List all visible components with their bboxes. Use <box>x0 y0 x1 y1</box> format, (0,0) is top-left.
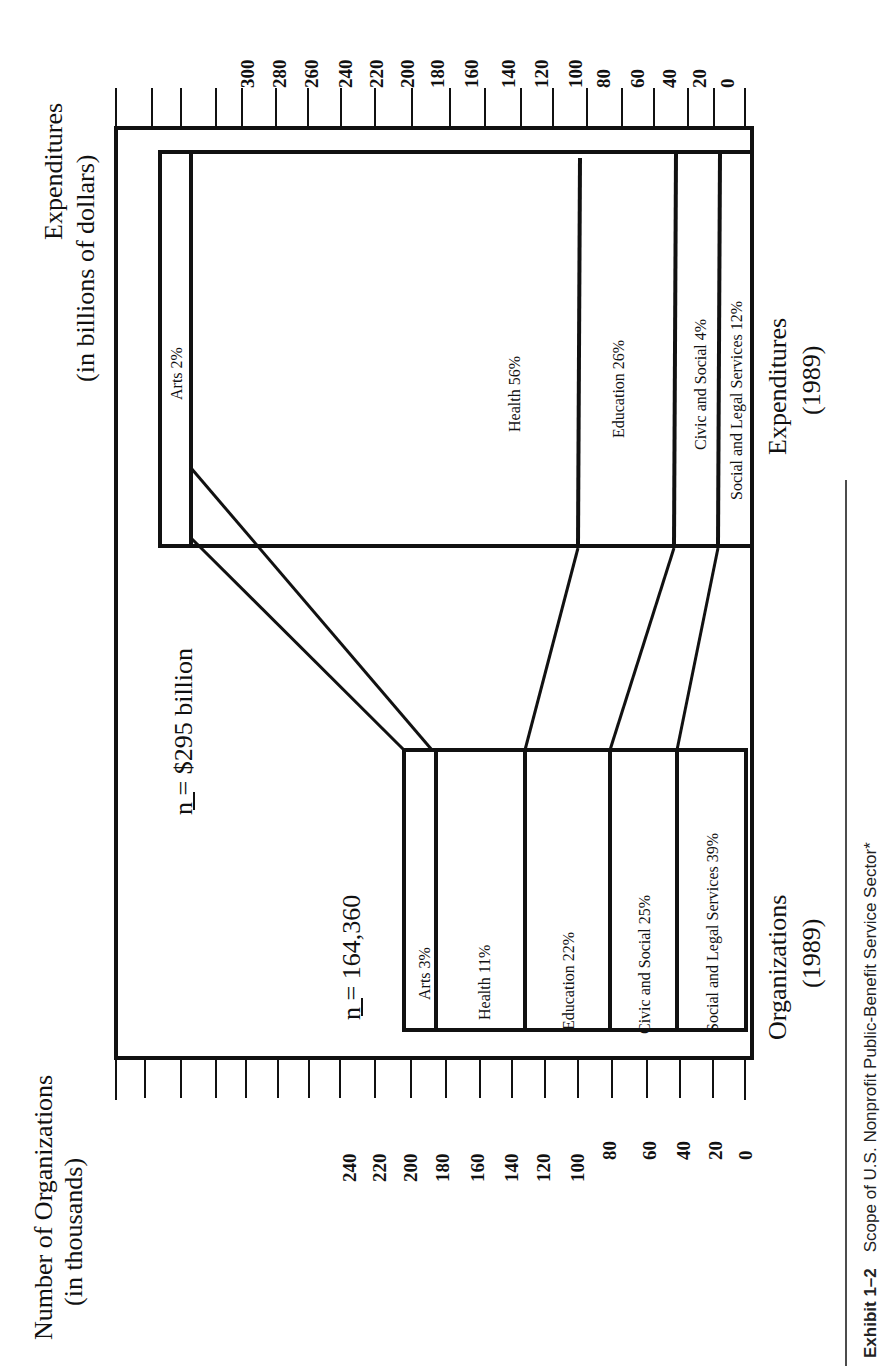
left-axis-title: Number of Organizations <box>29 1075 58 1340</box>
left-tick-160: 160 <box>467 1154 488 1183</box>
caption-text: Scope of U.S. Nonprofit Public-Benefit S… <box>861 842 880 1252</box>
exp-segment-health: Health 56% <box>506 356 523 432</box>
left-tick-40: 40 <box>673 1141 694 1160</box>
left-tick-0: 0 <box>735 1151 756 1161</box>
right-axis-labels: 0 20 40 60 80 100 120 140 160 180 200 22… <box>237 60 738 89</box>
right-tick-180: 180 <box>427 60 448 89</box>
left-tick-100: 100 <box>567 1154 588 1183</box>
right-tick-100: 100 <box>565 60 586 89</box>
right-axis-title: Expenditures <box>39 103 68 240</box>
connector-lines <box>191 468 718 750</box>
right-axis-subtitle: (in billions of dollars) <box>71 155 100 382</box>
right-tick-160: 160 <box>461 60 482 89</box>
right-tick-260: 260 <box>301 60 322 89</box>
right-tick-200: 200 <box>397 60 418 89</box>
org-segment-health: Health 11% <box>476 945 493 1020</box>
caption: Exhibit 1–2 Scope of U.S. Nonprofit Publ… <box>861 842 880 1358</box>
exp-segment-arts: Arts 2% <box>168 347 185 400</box>
left-tick-60: 60 <box>639 1141 660 1160</box>
right-tick-120: 120 <box>531 60 552 89</box>
left-tick-220: 220 <box>369 1154 390 1183</box>
left-tick-140: 140 <box>501 1154 522 1183</box>
left-axis <box>116 1058 745 1100</box>
left-tick-180: 180 <box>432 1154 453 1183</box>
left-axis-subtitle: (in thousands) <box>59 1158 88 1306</box>
org-segment-education: Education 22% <box>560 932 577 1030</box>
expenditures-total-label: n = $295 billion <box>169 648 198 815</box>
chart-figure: 0 20 40 60 80 100 120 140 160 180 200 22… <box>0 0 888 1366</box>
org-segment-social-legal: Social and Legal Services 39% <box>704 833 722 1032</box>
org-segment-arts: Arts 3% <box>416 947 433 1000</box>
expenditures-bar <box>160 152 752 546</box>
right-tick-240: 240 <box>335 60 356 89</box>
right-tick-0: 0 <box>717 79 738 89</box>
right-tick-220: 220 <box>366 60 387 89</box>
left-tick-200: 200 <box>400 1154 421 1183</box>
right-tick-280: 280 <box>269 60 290 89</box>
left-tick-120: 120 <box>533 1154 554 1183</box>
right-tick-60: 60 <box>627 69 648 88</box>
right-tick-140: 140 <box>498 60 519 89</box>
caption-number: Exhibit 1–2 <box>861 1268 880 1358</box>
right-axis <box>116 88 745 128</box>
right-tick-20: 20 <box>689 69 710 88</box>
expenditures-bar-title: Expenditures <box>763 318 792 455</box>
organizations-bar-title: Organizations <box>763 895 792 1040</box>
exp-segment-social-legal: Social and Legal Services 12% <box>728 301 746 500</box>
expenditures-bar-year: (1989) <box>797 346 826 415</box>
left-tick-80: 80 <box>599 1141 620 1160</box>
expenditures-segment-labels: Arts 2% Health 56% Education 26% Civic a… <box>168 301 746 500</box>
right-tick-80: 80 <box>593 69 614 88</box>
left-tick-20: 20 <box>705 1141 726 1160</box>
left-axis-labels: 0 20 40 60 80 100 120 140 160 180 200 22… <box>339 1141 756 1182</box>
right-tick-40: 40 <box>659 69 680 88</box>
org-segment-civic-social: Civic and Social 25% <box>636 895 653 1034</box>
exp-segment-education: Education 26% <box>610 340 627 438</box>
organizations-bar-year: (1989) <box>797 919 826 988</box>
right-tick-300: 300 <box>237 60 258 89</box>
exp-segment-civic-social: Civic and Social 4% <box>692 319 709 450</box>
left-tick-240: 240 <box>339 1154 360 1183</box>
